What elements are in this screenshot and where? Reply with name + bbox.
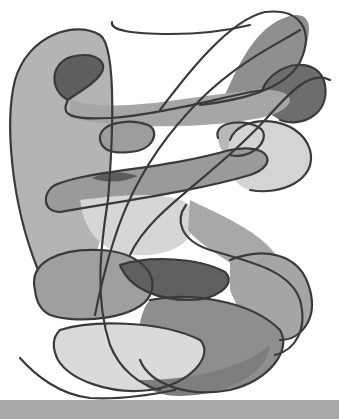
abstract-drawing xyxy=(0,0,339,400)
bottom-gray-band xyxy=(0,400,339,419)
